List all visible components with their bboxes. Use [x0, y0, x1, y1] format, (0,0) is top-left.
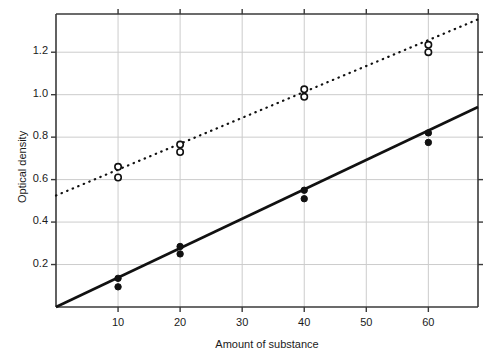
- chart-figure: 0.20.40.60.81.01.2102030405060 Amount of…: [0, 0, 500, 350]
- y-tick-label: 1.0: [6, 87, 48, 99]
- data-point: [177, 243, 183, 249]
- axis-ticks: [51, 9, 483, 312]
- gridlines: [56, 14, 478, 307]
- data-point: [177, 141, 183, 147]
- x-tick-label: 50: [346, 316, 386, 328]
- data-point: [177, 251, 183, 257]
- series-datapoints: [115, 42, 432, 290]
- data-point: [115, 164, 121, 170]
- data-point: [177, 149, 183, 155]
- data-point: [301, 187, 307, 193]
- x-axis-title: Amount of substance: [212, 338, 322, 350]
- data-point: [115, 174, 121, 180]
- data-point: [301, 94, 307, 100]
- x-tick-label: 60: [408, 316, 448, 328]
- y-tick-label: 1.2: [6, 44, 48, 56]
- data-point: [301, 196, 307, 202]
- x-tick-label: 10: [98, 316, 138, 328]
- data-point: [425, 42, 431, 48]
- data-point: [115, 284, 121, 290]
- x-tick-label: 40: [284, 316, 324, 328]
- x-tick-label: 20: [160, 316, 200, 328]
- data-point: [425, 130, 431, 136]
- data-point: [425, 139, 431, 145]
- y-axis-title: Optical density: [16, 130, 28, 202]
- plot-canvas: [0, 0, 500, 350]
- data-point: [301, 86, 307, 92]
- y-tick-label: 0.2: [6, 257, 48, 269]
- data-point: [115, 275, 121, 281]
- x-tick-label: 30: [222, 316, 262, 328]
- y-tick-label: 0.4: [6, 214, 48, 226]
- data-point: [425, 49, 431, 55]
- axis-frame: [56, 14, 478, 307]
